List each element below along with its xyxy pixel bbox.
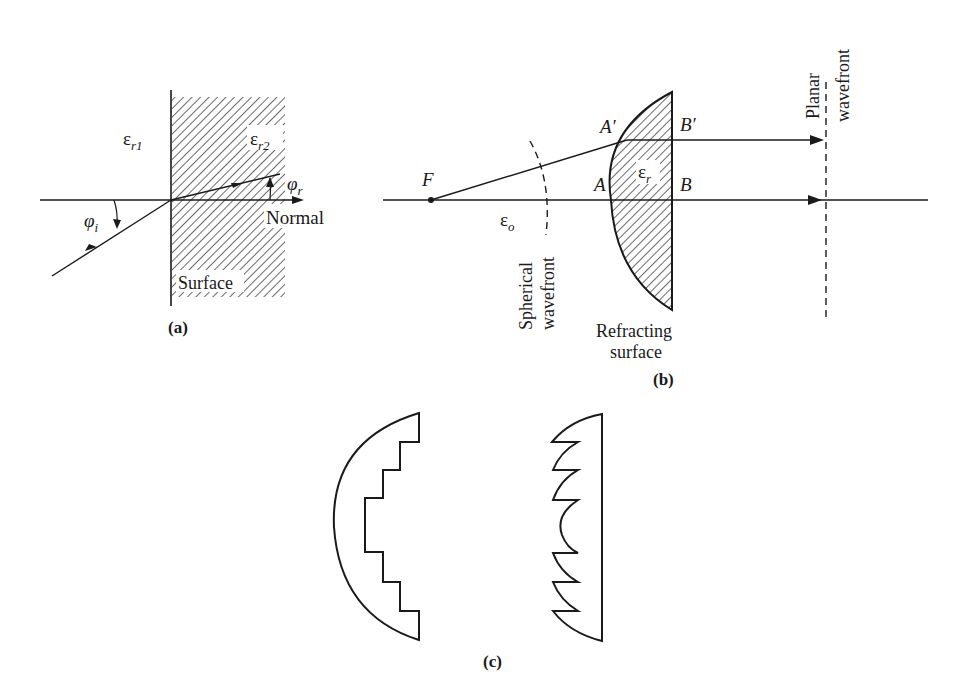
panel-b-caption: (b) [653, 370, 674, 389]
point-b-label: B [680, 174, 692, 195]
phi-i-label: φi [84, 210, 99, 235]
panel-a-caption: (a) [168, 318, 188, 337]
point-b-prime-label: B′ [680, 114, 697, 135]
refracting-surface-label-line1: Refracting [596, 321, 672, 341]
spherical-wavefront-arc [530, 141, 547, 235]
surface-label: Surface [178, 273, 233, 293]
fresnel-zoned-lens [552, 414, 602, 641]
focus-label: F [421, 169, 434, 190]
incident-ray-arrow-icon [85, 244, 97, 251]
spherical-wavefront-label-line2: wavefront [538, 257, 558, 330]
panel-c-caption: (c) [483, 652, 502, 671]
planar-wavefront-label-line2: wavefront [833, 49, 853, 122]
incident-ray [52, 200, 171, 276]
stepped-zoned-lens [334, 413, 419, 640]
phi-i-arrow-icon [113, 219, 121, 229]
figure-canvas: εr1 εr2 φr φi Normal Surface (a) F εo A′… [0, 0, 965, 693]
normal-label: Normal [266, 207, 324, 228]
eps-o-label: εo [500, 209, 515, 234]
axis-ray-arrow-icon [808, 195, 822, 205]
eps-r1-label: εr1 [123, 128, 143, 153]
panel-c: (c) [334, 413, 602, 671]
spherical-wavefront-label-line1: Spherical [516, 262, 536, 330]
planar-wavefront-label-line1: Planar [803, 73, 823, 119]
point-a-prime-label: A′ [598, 116, 617, 137]
refracting-surface-label-line2: surface [610, 342, 662, 362]
point-a-label: A [592, 174, 606, 195]
upper-ray-arrow-icon [810, 135, 824, 145]
panel-a: εr1 εr2 φr φi Normal Surface (a) [40, 90, 334, 337]
plano-convex-lens [610, 92, 672, 310]
panel-b: F εo A′ A εr B′ B Spherical wavefront Pl… [383, 49, 928, 389]
